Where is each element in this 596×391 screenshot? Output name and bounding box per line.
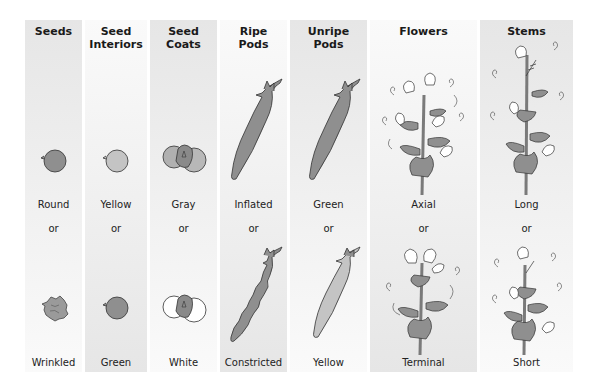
gray-seed-coat-icon bbox=[150, 65, 217, 195]
column-header: Flowers bbox=[370, 25, 477, 38]
column-seed-interiors: Seed Interiors Yellow or Green bbox=[85, 20, 147, 372]
trait-recessive: Constricted bbox=[220, 357, 287, 368]
trait-recessive: Terminal bbox=[370, 357, 477, 368]
short-stem-plant-icon bbox=[480, 245, 573, 355]
trait-recessive: Wrinkled bbox=[25, 357, 82, 368]
yellow-seed-icon bbox=[85, 65, 147, 195]
round-seed-icon bbox=[25, 65, 82, 195]
column-header: Seeds bbox=[25, 25, 82, 38]
or-label: or bbox=[85, 223, 147, 234]
trait-dominant: Round bbox=[25, 199, 82, 210]
long-stem-plant-icon bbox=[480, 40, 573, 195]
column-flowers: Flowers Axial or bbox=[370, 20, 477, 372]
trait-recessive: Yellow bbox=[290, 357, 367, 368]
column-seed-coats: Seed Coats Gray or White bbox=[150, 20, 217, 372]
trait-dominant: Yellow bbox=[85, 199, 147, 210]
column-header: Seed Coats bbox=[150, 25, 217, 51]
trait-dominant: Axial bbox=[370, 199, 477, 210]
wrinkled-seed-icon bbox=[25, 245, 82, 355]
trait-dominant: Inflated bbox=[220, 199, 287, 210]
or-label: or bbox=[480, 223, 573, 234]
column-header: Ripe Pods bbox=[220, 25, 287, 51]
column-header: Unripe Pods bbox=[290, 25, 367, 51]
green-pod-icon bbox=[290, 65, 367, 195]
column-seeds: Seeds Round or Wrinkled bbox=[25, 20, 82, 372]
column-header: Seed Interiors bbox=[85, 25, 147, 51]
column-ripe-pods: Ripe Pods Inflated or Constricted bbox=[220, 20, 287, 372]
or-label: or bbox=[150, 223, 217, 234]
trait-dominant: Green bbox=[290, 199, 367, 210]
trait-recessive: White bbox=[150, 357, 217, 368]
constricted-pod-icon bbox=[220, 245, 287, 355]
white-seed-coat-icon bbox=[150, 245, 217, 355]
axial-flower-plant-icon bbox=[370, 65, 477, 195]
terminal-flower-plant-icon bbox=[370, 245, 477, 355]
yellow-pod-icon bbox=[290, 245, 367, 355]
mendel-pea-traits-figure: Seeds Round or Wrinkled Seed Interiors Y… bbox=[25, 20, 573, 372]
green-seed-icon bbox=[85, 245, 147, 355]
column-unripe-pods: Unripe Pods Green or Yellow bbox=[290, 20, 367, 372]
inflated-pod-icon bbox=[220, 65, 287, 195]
or-label: or bbox=[290, 223, 367, 234]
or-label: or bbox=[370, 223, 477, 234]
column-header: Stems bbox=[480, 25, 573, 38]
column-stems: Stems Long or bbox=[480, 20, 573, 372]
or-label: or bbox=[25, 223, 82, 234]
trait-recessive: Green bbox=[85, 357, 147, 368]
or-label: or bbox=[220, 223, 287, 234]
trait-dominant: Long bbox=[480, 199, 573, 210]
trait-recessive: Short bbox=[480, 357, 573, 368]
trait-dominant: Gray bbox=[150, 199, 217, 210]
